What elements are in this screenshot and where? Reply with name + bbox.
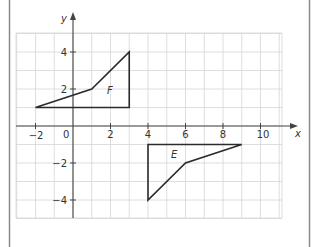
y-tick-label: 2 xyxy=(61,84,67,95)
x-tick-label: 8 xyxy=(220,129,226,140)
shape-label-f: F xyxy=(107,85,113,96)
x-tick-label: −2 xyxy=(29,130,44,141)
diagram-frame: y x 0 −2 2 4 6 8 10 4 2 −2 −4 F E xyxy=(0,0,315,247)
y-tick-label: −4 xyxy=(52,195,67,206)
coordinate-plane: y x 0 −2 2 4 6 8 10 4 2 −2 −4 F E xyxy=(0,0,315,247)
x-tick-label: 10 xyxy=(257,129,270,140)
x-tick-label: 4 xyxy=(145,129,151,140)
x-tick-label: 6 xyxy=(182,129,188,140)
y-tick-label: 4 xyxy=(61,47,67,58)
x-tick-label: 2 xyxy=(107,129,113,140)
y-tick-label: −2 xyxy=(52,158,67,169)
y-axis-arrow-icon xyxy=(70,12,76,20)
shape-label-e: E xyxy=(171,149,178,160)
shape-e xyxy=(148,145,242,201)
axes xyxy=(16,12,298,218)
origin-label: 0 xyxy=(63,129,69,140)
shape-f xyxy=(36,52,130,108)
x-axis-label: x xyxy=(294,128,301,139)
y-axis-label: y xyxy=(60,13,68,24)
